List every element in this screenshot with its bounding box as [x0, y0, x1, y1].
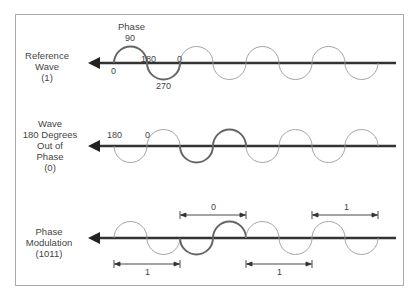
row2-180: 180	[107, 130, 122, 140]
reference-wave	[88, 47, 396, 80]
phase-title: Phase	[118, 21, 145, 32]
phase-0-start: 0	[111, 66, 116, 76]
bit-1-bottom-label-b: 1	[277, 267, 282, 277]
bit-1-top-label: 1	[344, 202, 349, 212]
waves-svg	[0, 0, 420, 296]
bit-0-label: 0	[211, 202, 216, 212]
bit-1-bottom-label-a: 1	[145, 267, 150, 277]
out-of-phase-wave	[88, 130, 396, 163]
bit-brackets	[114, 211, 378, 268]
phase-0-end: 0	[177, 54, 182, 64]
row2-0: 0	[145, 130, 150, 140]
phase-90: 90	[125, 33, 135, 43]
phase-180: 180	[141, 54, 156, 64]
phase-270: 270	[156, 81, 171, 91]
phase-modulation-wave	[88, 211, 396, 268]
